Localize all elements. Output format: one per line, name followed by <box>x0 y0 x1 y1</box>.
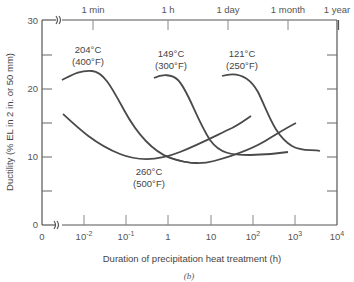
series-labels: 204°C (400°F) 149°C (300°F) 121°C (250°F… <box>72 44 258 189</box>
y-axis-label: Ductility (% EL in 2 in. or 50 mm) <box>4 53 15 191</box>
x-axis-label: Duration of precipitation heat treatment… <box>103 253 281 264</box>
curves <box>62 71 320 163</box>
label-121C-f: (250°F) <box>226 60 258 71</box>
curve-204C <box>62 71 198 163</box>
label-149C-f: (300°F) <box>155 60 187 71</box>
label-260C-f: (500°F) <box>133 178 165 189</box>
x-axis-ticks <box>84 215 295 225</box>
label-260C-c: 260°C <box>136 166 163 177</box>
top-tick-1month: 1 month <box>271 4 305 15</box>
label-204C-f: (400°F) <box>72 56 104 67</box>
x-tick-1: 1 <box>165 231 170 242</box>
x-tick-1e2: 102 <box>246 230 261 242</box>
label-204C-c: 204°C <box>75 44 102 55</box>
figure-caption: (b) <box>184 271 195 281</box>
x-tick-1e-2: 10-2 <box>76 230 93 242</box>
x-tick-1e-1: 10-1 <box>118 230 135 242</box>
top-tick-1day: 1 day <box>216 4 239 15</box>
x-tick-1e4: 104 <box>330 230 345 242</box>
label-121C-c: 121°C <box>229 48 256 59</box>
y-axis-ticks <box>42 55 337 191</box>
y-tick-10: 10 <box>27 151 38 162</box>
top-axis-ticks <box>93 20 288 30</box>
y-tick-20: 20 <box>27 83 38 94</box>
x-tick-0: 0 <box>39 231 44 242</box>
label-149C-c: 149°C <box>158 48 185 59</box>
curve-260C <box>63 114 251 159</box>
top-tick-1year: 1 year <box>324 4 350 15</box>
x-tick-10: 10 <box>206 231 217 242</box>
y-tick-0: 0 <box>33 219 38 230</box>
ductility-chart: 0 10 20 30 0 10-2 10-1 1 10 102 103 104 … <box>0 0 354 282</box>
top-tick-1min: 1 min <box>81 4 104 15</box>
y-tick-30: 30 <box>27 15 38 26</box>
x-tick-1e3: 103 <box>288 230 303 242</box>
top-tick-1h: 1 h <box>161 4 174 15</box>
curve-121C <box>222 74 320 151</box>
